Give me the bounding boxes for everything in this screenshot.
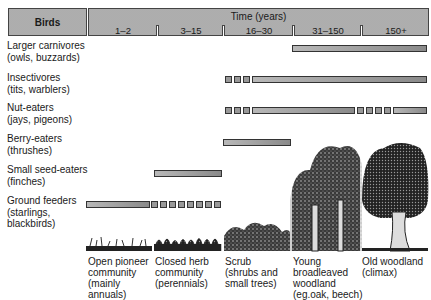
stage-line: Closed herb: [155, 256, 209, 267]
stage-line: (eg.oak, beech): [293, 289, 363, 300]
stage-line: broadleaved: [293, 267, 363, 278]
stage-line: community: [155, 267, 209, 278]
occasional-square: [187, 201, 194, 208]
occasional-square: [357, 107, 364, 114]
stage-line: (climax): [362, 267, 423, 278]
occasional-square: [151, 201, 158, 208]
stage-line: community: [88, 267, 149, 278]
bar-larger-carnivores: [292, 45, 427, 52]
bar-small-seed-eaters: [154, 170, 222, 177]
herb-vegetation: [154, 239, 222, 252]
stage-line: Young: [293, 256, 363, 267]
stage-label-open-pioneer: Open pioneer community (mainly annuals): [88, 256, 149, 300]
occasional-square: [366, 107, 373, 114]
stage-line: Open pioneer: [88, 256, 149, 267]
stage-label-young-woodland: Young broadleaved woodland (eg.oak, beec…: [293, 256, 363, 300]
bar-insectivores: [252, 76, 427, 83]
occasional-square: [225, 76, 232, 83]
occasional-square: [234, 107, 241, 114]
stage-line: (mainly: [88, 278, 149, 289]
pioneer-vegetation: [86, 237, 152, 251]
scrub-vegetation: [224, 223, 292, 251]
occasional-square: [225, 107, 232, 114]
occasional-square: [205, 201, 212, 208]
bar-nut-eaters-1: [252, 107, 355, 114]
occasional-square: [214, 201, 221, 208]
occasional-square: [178, 201, 185, 208]
stage-label-closed-herb: Closed herb community (perennials): [155, 256, 209, 289]
occasional-square: [375, 107, 382, 114]
bar-nut-eaters-2: [393, 107, 427, 114]
occasional-square: [234, 76, 241, 83]
occasional-square: [196, 201, 203, 208]
stage-line: Old woodland: [362, 256, 423, 267]
occasional-square: [169, 201, 176, 208]
occasional-square: [243, 76, 250, 83]
stage-line: small trees): [225, 278, 278, 289]
stage-line: woodland: [293, 278, 363, 289]
stage-line: Scrub: [225, 256, 278, 267]
bar-ground-feeders: [86, 201, 150, 208]
stage-label-scrub: Scrub (shrubs and small trees): [225, 256, 278, 289]
bar-berry-eaters: [223, 139, 291, 146]
stage-line: (shrubs and: [225, 267, 278, 278]
occasional-square: [160, 201, 167, 208]
stage-label-old-woodland: Old woodland (climax): [362, 256, 423, 278]
stage-line: annuals): [88, 289, 149, 300]
young-woodland-trees: [290, 146, 362, 251]
old-woodland-tree: [362, 143, 428, 251]
occasional-square: [384, 107, 391, 114]
stage-line: (perennials): [155, 278, 209, 289]
occasional-square: [243, 107, 250, 114]
